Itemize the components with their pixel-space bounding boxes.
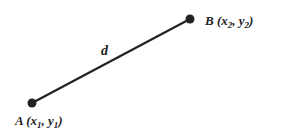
point-b <box>186 15 195 24</box>
point-a <box>28 99 37 108</box>
segment-ab <box>32 19 190 103</box>
point-a-label: A (x1, y1) <box>14 113 63 130</box>
distance-label: d <box>101 43 109 58</box>
point-b-label: B (x2, y2) <box>204 13 253 30</box>
distance-diagram: d B (x2, y2) A (x1, y1) <box>0 0 281 134</box>
